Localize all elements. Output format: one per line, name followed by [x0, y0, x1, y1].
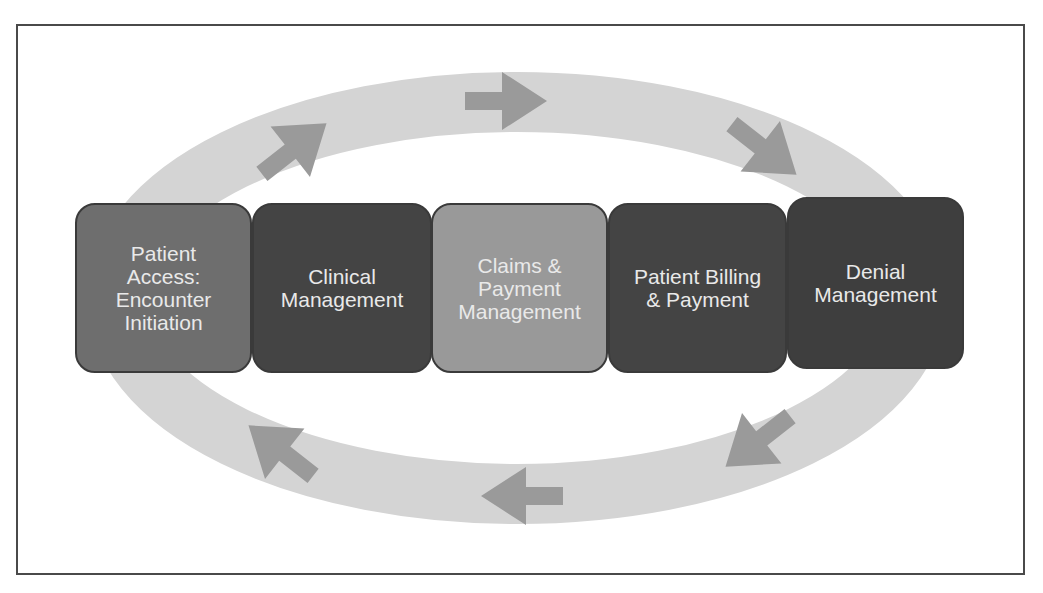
stage-label: Clinical Management [281, 265, 404, 311]
stage-label: Claims & Payment Management [458, 254, 581, 323]
stage-clinical-management: Clinical Management [252, 203, 432, 373]
stage-label: Denial Management [814, 260, 937, 306]
stage-label: Patient Billing & Payment [634, 265, 761, 311]
stage-denial-management: Denial Management [787, 197, 964, 369]
stage-patient-access: Patient Access: Encounter Initiation [75, 203, 252, 373]
stage-claims-payment-management: Claims & Payment Management [431, 203, 608, 373]
stage-patient-billing-payment: Patient Billing & Payment [608, 203, 787, 373]
stage-label: Patient Access: Encounter Initiation [116, 242, 212, 334]
